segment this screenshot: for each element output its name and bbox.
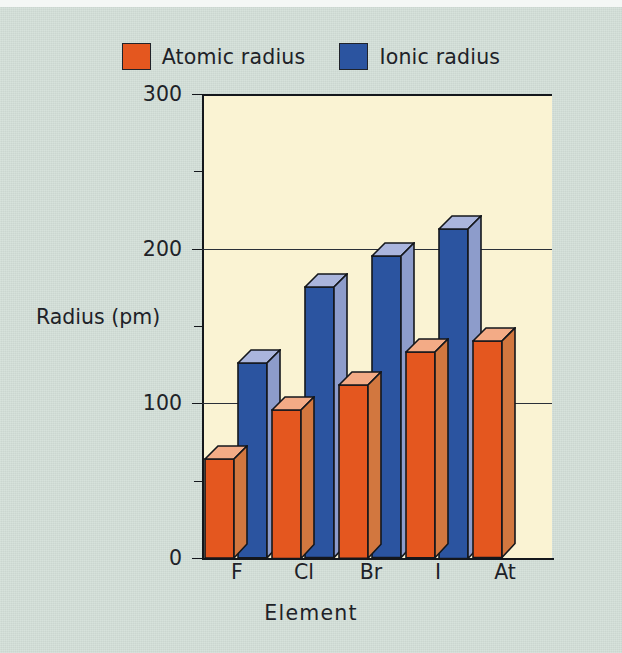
bar-atomic-at (472, 327, 516, 558)
bar-3d-shape (472, 327, 516, 560)
y-tick-200 (192, 249, 202, 250)
y-axis-title: Radius (pm) (36, 305, 160, 329)
x-tick-label-br: Br (341, 560, 401, 584)
y-tick-label-100: 100 (112, 391, 182, 415)
y-tick-100 (192, 403, 202, 404)
bar-chart: 300 200 100 0 Radius (pm) Element F Cl B… (0, 0, 622, 653)
x-tick-label-i: I (408, 560, 468, 584)
bar-3d-shape (271, 396, 315, 560)
y-tick-150 (194, 326, 202, 327)
bar-3d-shape (338, 371, 382, 560)
y-tick-label-0: 0 (112, 546, 182, 570)
y-tick-label-300: 300 (112, 82, 182, 106)
bar-atomic-i (405, 338, 449, 558)
y-tick-0 (192, 558, 202, 559)
y-tick-250 (194, 171, 202, 172)
bar-atomic-br (338, 371, 382, 558)
y-tick-label-200: 200 (112, 237, 182, 261)
bar-3d-shape (204, 445, 248, 560)
bar-3d-shape (405, 338, 449, 560)
x-axis-title: Element (0, 601, 622, 625)
bar-atomic-f (204, 445, 248, 558)
y-tick-50 (194, 481, 202, 482)
y-tick-300 (192, 94, 202, 95)
x-tick-label-at: At (475, 560, 535, 584)
bar-atomic-cl (271, 396, 315, 558)
x-tick-label-cl: Cl (274, 560, 334, 584)
x-tick-label-f: F (207, 560, 267, 584)
